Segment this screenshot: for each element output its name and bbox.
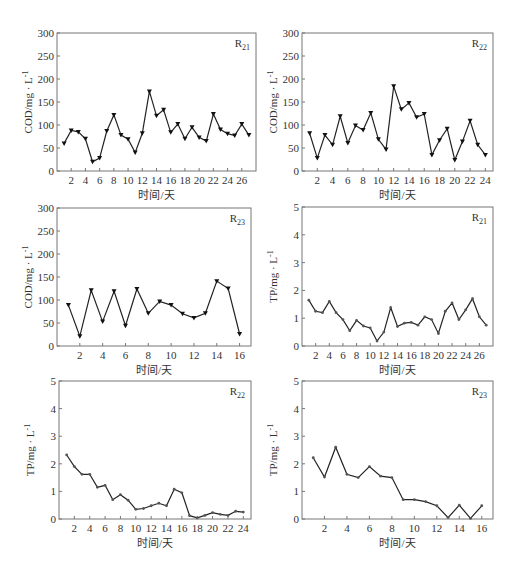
y-tick-label: 2 <box>51 458 57 470</box>
data-point <box>83 137 88 142</box>
x-axis-label: 时间/天 <box>379 537 415 549</box>
data-point <box>342 318 345 321</box>
data-point <box>62 141 67 146</box>
data-point <box>355 319 358 322</box>
data-point <box>413 498 416 501</box>
data-point <box>435 504 438 507</box>
x-tick-label: 6 <box>367 522 373 534</box>
y-tick-label: 1 <box>294 485 300 497</box>
y-tick-label: 0 <box>49 165 55 177</box>
data-point <box>180 491 183 494</box>
data-point <box>307 299 310 302</box>
x-tick-label: 24 <box>238 522 250 534</box>
x-tick-label: 2 <box>68 174 74 186</box>
x-tick-label: 10 <box>373 174 385 186</box>
data-point <box>227 514 230 517</box>
data-point <box>165 504 168 507</box>
x-axis-label: 时间/天 <box>137 537 173 549</box>
data-point <box>460 140 465 145</box>
x-tick-label: 24 <box>460 349 472 361</box>
data-point <box>111 113 116 118</box>
x-tick-label: 14 <box>403 174 415 186</box>
y-tick-label: 200 <box>38 248 55 260</box>
data-point <box>335 311 338 314</box>
y-tick-label: 150 <box>38 271 55 283</box>
data-point <box>417 324 420 327</box>
x-axis-label: 时间/天 <box>379 189 415 201</box>
x-tick-label: 14 <box>454 522 466 534</box>
y-tick-label: 2 <box>294 284 300 296</box>
x-tick-label: 8 <box>354 349 360 361</box>
y-tick-label: 5 <box>294 201 300 213</box>
data-point <box>389 306 392 309</box>
data-point <box>307 131 312 136</box>
data-point <box>134 287 139 292</box>
data-point <box>314 310 317 313</box>
x-tick-label: 22 <box>465 174 476 186</box>
data-point <box>346 473 349 476</box>
data-point <box>188 514 191 517</box>
data-point <box>211 112 216 117</box>
x-tick-label: 16 <box>419 174 431 186</box>
data-point <box>88 473 91 476</box>
data-point <box>437 138 442 143</box>
y-tick-label: 0 <box>51 513 57 525</box>
data-point <box>361 128 366 133</box>
plot-frame <box>302 381 493 519</box>
data-point <box>362 325 365 328</box>
data-point <box>396 325 399 328</box>
data-point <box>369 327 372 330</box>
x-tick-label: 12 <box>431 522 442 534</box>
plot-frame <box>302 33 493 171</box>
chart-tp_r22: 01234524681012141618202224时间/天TP/mg · L-… <box>23 375 251 549</box>
data-point <box>399 107 404 112</box>
x-tick-label: 22 <box>222 522 233 534</box>
data-line <box>64 91 249 161</box>
data-point <box>104 484 107 487</box>
x-tick-label: 14 <box>151 174 163 186</box>
data-point <box>457 318 460 321</box>
data-point <box>142 507 145 510</box>
data-point <box>323 476 326 479</box>
data-line <box>67 455 244 518</box>
y-axis-label: COD/mg · L-1 <box>21 246 34 309</box>
data-point <box>182 137 187 142</box>
data-point <box>140 131 145 136</box>
data-point <box>154 114 159 119</box>
y-tick-label: 250 <box>38 225 55 237</box>
chart-cod_r22: 05010015020025030024681012141618202224时间… <box>266 27 493 201</box>
x-tick-label: 4 <box>100 349 106 361</box>
x-tick-label: 4 <box>87 522 93 534</box>
y-tick-label: 0 <box>294 340 300 352</box>
x-tick-label: 2 <box>313 349 319 361</box>
data-point <box>89 288 94 293</box>
data-point <box>430 318 433 321</box>
data-point <box>118 133 123 138</box>
x-tick-label: 12 <box>188 349 199 361</box>
x-tick-label: 2 <box>315 174 321 186</box>
x-tick-label: 20 <box>207 522 219 534</box>
data-point <box>357 476 360 479</box>
plot-frame <box>57 33 256 171</box>
data-point <box>214 279 219 284</box>
x-tick-label: 4 <box>344 522 350 534</box>
data-point <box>414 115 419 120</box>
x-tick-label: 8 <box>118 522 124 534</box>
x-tick-label: 22 <box>208 174 219 186</box>
data-point <box>104 129 109 134</box>
data-point <box>119 493 122 496</box>
data-point <box>483 153 488 158</box>
data-point <box>65 454 68 457</box>
charts-canvas: 0501001502002503002468101214161820222426… <box>0 0 518 572</box>
x-tick-label: 24 <box>480 174 492 186</box>
data-point <box>338 114 343 119</box>
y-tick-label: 0 <box>294 165 300 177</box>
data-point <box>452 158 457 163</box>
data-point <box>168 130 173 135</box>
x-tick-label: 2 <box>77 349 83 361</box>
data-point <box>330 143 335 148</box>
y-tick-label: 50 <box>43 317 55 329</box>
data-point <box>424 500 427 503</box>
data-point <box>468 119 473 124</box>
data-point <box>402 498 405 501</box>
